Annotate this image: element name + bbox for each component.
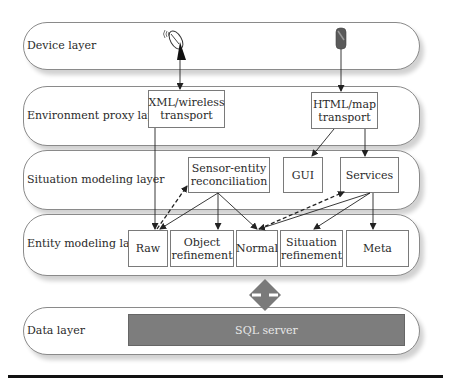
box-label-line2: refinement <box>281 249 342 262</box>
box-label-line1: Sensor-entity <box>192 162 267 175</box>
sql-server-label: SQL server <box>235 324 298 337</box>
meta-box: Meta <box>346 230 409 267</box>
box-label-line1: Situation <box>286 236 337 249</box>
environment-proxy-layer-label: Environment proxy layer <box>27 109 166 122</box>
box-label-line2: refinement <box>171 249 232 262</box>
device-layer: Device layer <box>23 22 420 70</box>
xml-wireless-transport-box: XML/wireless transport <box>148 90 225 128</box>
box-label-line2: transport <box>318 111 370 124</box>
box-label-line1: XML/wireless <box>148 96 224 109</box>
sql-server-bar: SQL server <box>128 314 405 346</box>
box-label: GUI <box>292 169 314 182</box>
box-label: Meta <box>363 242 392 255</box>
raw-box: Raw <box>128 230 168 267</box>
device-layer-label: Device layer <box>27 39 96 52</box>
gui-box: GUI <box>283 157 323 193</box>
box-label: Normal <box>236 242 278 255</box>
box-label-line1: HTML/map <box>313 98 376 111</box>
situation-modeling-layer-label: Situation modeling layer <box>27 173 165 186</box>
object-refinement-box: Object refinement <box>170 230 234 267</box>
situation-refinement-box: Situation refinement <box>280 230 343 267</box>
box-label: Services <box>346 169 393 182</box>
html-map-transport-box: HTML/map transport <box>311 92 378 129</box>
box-label-line2: reconciliation <box>191 175 268 188</box>
services-box: Services <box>340 157 399 193</box>
box-label-line1: Object <box>184 236 221 249</box>
normal-box: Normal <box>236 230 278 267</box>
bottom-rule <box>8 375 443 378</box>
box-label-line2: transport <box>160 109 212 122</box>
data-layer-label: Data layer <box>27 324 85 337</box>
sensor-entity-reconciliation-box: Sensor-entity reconciliation <box>188 157 270 193</box>
box-label: Raw <box>136 242 161 255</box>
